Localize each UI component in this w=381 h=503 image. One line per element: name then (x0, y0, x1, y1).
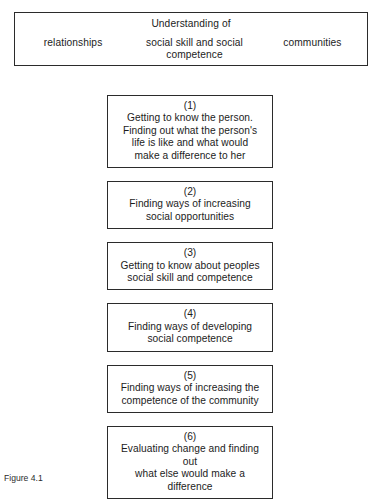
step-number-3: (3) (113, 247, 267, 259)
step-number-5: (5) (113, 370, 267, 382)
step-number-2: (2) (113, 186, 267, 198)
step-box-6: (6) Evaluating change and finding out wh… (107, 426, 273, 499)
header-column-communities: communities (258, 37, 367, 49)
header-column-relationships: relationships (15, 37, 131, 49)
step-number-4: (4) (113, 308, 267, 320)
step-box-2: (2) Finding ways of increasing social op… (107, 181, 273, 229)
step-text-4: Finding ways of developing social compet… (113, 321, 267, 346)
step-text-5: Finding ways of increasing the competenc… (113, 382, 267, 407)
header-column-social-skill: social skill and social competence (131, 37, 258, 61)
step-number-1: (1) (113, 100, 267, 112)
step-text-2: Finding ways of increasing social opport… (113, 198, 267, 223)
step-text-3: Getting to know about peoples social ski… (113, 260, 267, 285)
header-title: Understanding of (15, 18, 367, 30)
step-box-5: (5) Finding ways of increasing the compe… (107, 365, 273, 413)
step-text-1: Getting to know the person. Finding out … (113, 112, 267, 162)
step-text-6: Evaluating change and finding out what e… (113, 443, 267, 493)
step-box-3: (3) Getting to know about peoples social… (107, 242, 273, 290)
step-box-4: (4) Finding ways of developing social co… (107, 303, 273, 351)
step-box-stack: (1) Getting to know the person. Finding … (107, 95, 273, 503)
step-number-6: (6) (113, 431, 267, 443)
header-columns: relationships social skill and social co… (15, 37, 367, 61)
figure-caption: Figure 4.1 (4, 473, 344, 483)
understanding-header-box: Understanding of relationships social sk… (14, 12, 368, 66)
step-box-1: (1) Getting to know the person. Finding … (107, 95, 273, 168)
